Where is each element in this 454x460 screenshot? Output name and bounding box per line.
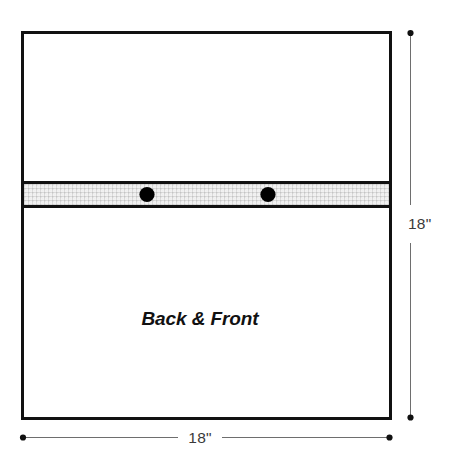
grommet-left-icon	[139, 187, 154, 202]
panel-group	[22, 32, 390, 418]
mesh-band-bottom-edge	[22, 205, 390, 208]
mesh-band-group	[22, 181, 390, 208]
mesh-band-texture	[24, 183, 389, 206]
horizontal-dimension-label: 18"	[188, 429, 211, 446]
horizontal-dimension-left-dot-icon	[20, 434, 26, 440]
horizontal-dimension-right-dot-icon	[386, 434, 392, 440]
panel-outline	[22, 32, 390, 418]
panel-label: Back & Front	[141, 308, 259, 329]
horizontal-dimension: 18"	[20, 429, 393, 446]
mesh-band-top-edge	[22, 181, 390, 184]
vertical-dimension: 18"	[407, 30, 431, 421]
vertical-dimension-label: 18"	[408, 215, 431, 232]
grommet-right-icon	[260, 187, 275, 202]
vertical-dimension-bottom-dot-icon	[407, 414, 413, 420]
vertical-dimension-top-dot-icon	[407, 30, 413, 36]
cutting-diagram: Back & Front 18" 18"	[0, 0, 454, 460]
diagram-canvas: Back & Front 18" 18"	[0, 0, 454, 460]
